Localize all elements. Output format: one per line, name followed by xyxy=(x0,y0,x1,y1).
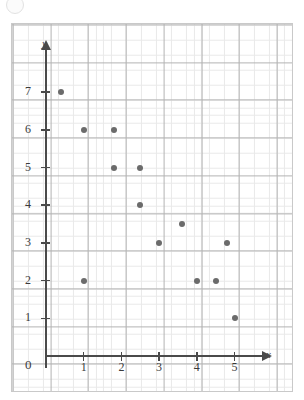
corner-artifact-icon xyxy=(6,0,24,14)
y-tick-mark xyxy=(41,91,50,93)
x-axis-label: x xyxy=(266,348,271,360)
y-tick-label: 5 xyxy=(18,160,38,175)
x-tick-label: 2 xyxy=(111,360,131,375)
graph-grid-frame xyxy=(11,23,293,392)
x-tick-label: 1 xyxy=(74,360,94,375)
y-axis-line xyxy=(45,48,47,368)
data-point xyxy=(232,315,238,321)
x-tick-label: 3 xyxy=(149,360,169,375)
data-point xyxy=(194,278,200,284)
data-point xyxy=(179,221,185,227)
grid-major-lines xyxy=(12,24,292,391)
data-point xyxy=(111,165,117,171)
y-tick-label: 6 xyxy=(18,122,38,137)
y-axis-label: y xyxy=(42,37,47,49)
y-tick-mark xyxy=(41,129,50,131)
y-tick-label: 7 xyxy=(18,84,38,99)
scatter-plot-figure: y x 0 1234567 12345 xyxy=(0,0,304,400)
y-tick-label: 1 xyxy=(18,310,38,325)
y-tick-mark xyxy=(41,242,50,244)
data-point xyxy=(58,89,64,95)
x-tick-label: 5 xyxy=(225,360,245,375)
y-tick-label: 3 xyxy=(18,235,38,250)
data-point xyxy=(137,202,143,208)
y-tick-mark xyxy=(41,167,50,169)
y-tick-mark xyxy=(41,280,50,282)
y-tick-mark xyxy=(41,318,50,320)
y-tick-label: 4 xyxy=(18,197,38,212)
data-point xyxy=(224,240,230,246)
data-point xyxy=(111,127,117,133)
data-point xyxy=(156,240,162,246)
data-point xyxy=(81,127,87,133)
x-tick-label: 4 xyxy=(187,360,207,375)
data-point xyxy=(81,278,87,284)
data-point xyxy=(137,165,143,171)
y-tick-label: 2 xyxy=(18,273,38,288)
origin-label: 0 xyxy=(25,357,32,373)
y-tick-mark xyxy=(41,204,50,206)
data-point xyxy=(213,278,219,284)
x-axis-line xyxy=(46,355,264,357)
